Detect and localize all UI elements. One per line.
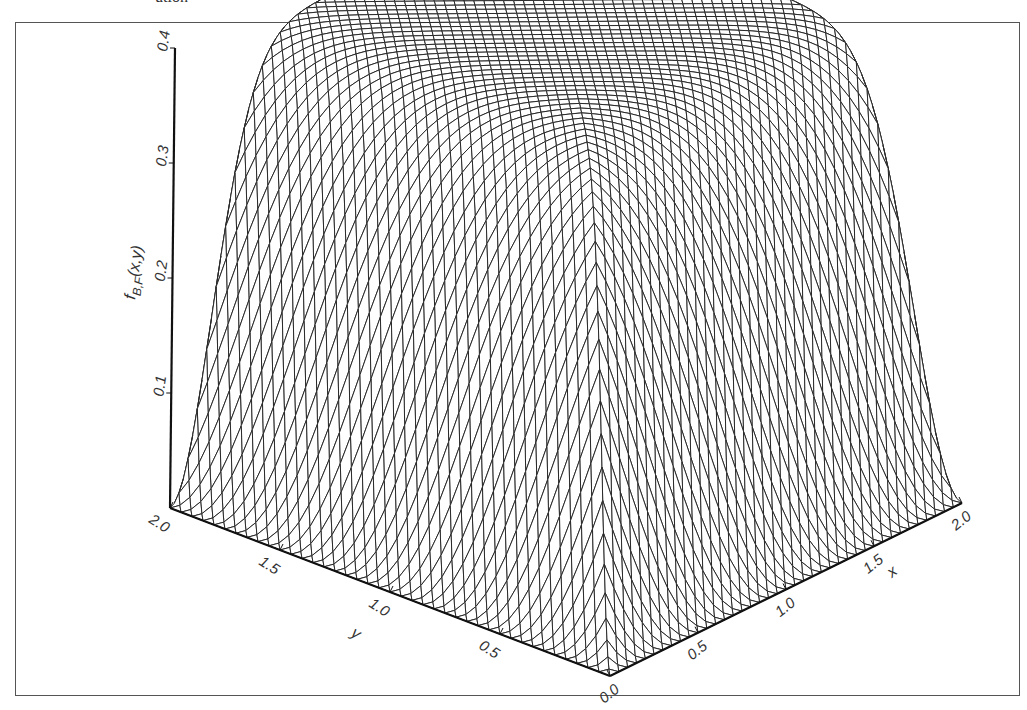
x-tick-label: 0.0 xyxy=(595,680,622,707)
y-tick-label: 1.0 xyxy=(366,594,393,620)
x-tick-label: 1.0 xyxy=(771,593,798,620)
z-tick-label: 0.2 xyxy=(151,259,171,283)
z-tick-label: 0.1 xyxy=(149,374,169,397)
x-axis-title: x xyxy=(883,561,901,581)
y-tick-label: 0.5 xyxy=(476,636,503,662)
y-axis-title: y xyxy=(348,623,365,643)
y-tick-label: 2.0 xyxy=(146,510,174,536)
x-tick-label: 0.5 xyxy=(683,636,710,663)
z-tick-label: 0.3 xyxy=(152,144,172,168)
y-tick-label: 1.5 xyxy=(256,552,283,578)
z-axis-title: fB,F(x,y) xyxy=(121,244,150,301)
x-tick-label: 1.5 xyxy=(859,550,886,577)
surface-mesh xyxy=(170,0,962,676)
z-tick-label: 0.4 xyxy=(153,29,173,52)
surface-plot: 0.00.51.01.52.00.51.01.52.00.10.20.30.4x… xyxy=(0,0,1027,710)
x-tick-label: 2.0 xyxy=(947,507,975,534)
